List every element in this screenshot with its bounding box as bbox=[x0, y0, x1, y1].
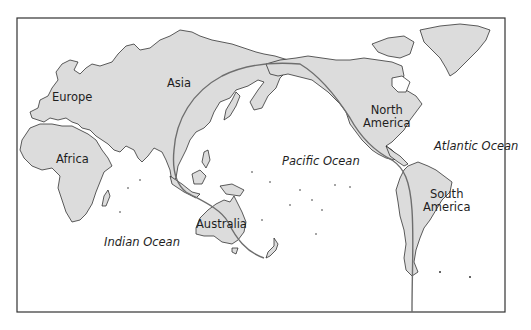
label-north-america: North America bbox=[363, 104, 410, 130]
label-australia: Australia bbox=[196, 218, 247, 231]
label-south-america-line2: America bbox=[423, 201, 470, 214]
label-europe: Europe bbox=[52, 91, 92, 104]
label-indian-ocean: Indian Ocean bbox=[104, 236, 180, 249]
label-pacific-ocean: Pacific Ocean bbox=[282, 155, 360, 168]
label-north-america-line2: America bbox=[363, 117, 410, 130]
label-africa: Africa bbox=[56, 153, 89, 166]
label-south-america: South America bbox=[423, 188, 470, 214]
label-atlantic-ocean: Atlantic Ocean bbox=[434, 140, 518, 153]
label-asia: Asia bbox=[167, 77, 191, 90]
